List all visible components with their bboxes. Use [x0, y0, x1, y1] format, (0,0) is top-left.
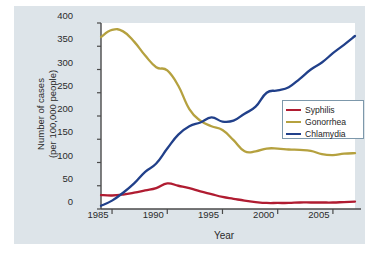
x-axis-tick-label: 1985: [78, 210, 118, 220]
legend: SyphilisGonorrheaChlamydia: [282, 100, 364, 139]
legend-swatch-gonorrhea: [286, 121, 301, 123]
legend-label: Syphilis: [305, 105, 335, 115]
x-axis-tick-label: 2000: [244, 210, 284, 220]
legend-item-chlamydia[interactable]: Chlamydia: [286, 128, 360, 139]
legend-swatch-chlamydia: [286, 133, 301, 135]
x-axis-tick-label: 1990: [133, 210, 173, 220]
y-axis-tick-label: 400: [39, 11, 73, 21]
x-axis-tick-label: 1995: [188, 210, 228, 220]
legend-label: Chlamydia: [305, 129, 346, 139]
figure: 050100150200250300350400 198519901995200…: [0, 0, 376, 255]
chart-panel: 050100150200250300350400 198519901995200…: [14, 6, 365, 244]
legend-item-syphilis[interactable]: Syphilis: [286, 104, 360, 115]
y-axis-title-line-2: (per 100,000 people): [47, 24, 59, 204]
legend-label: Gonorrhea: [305, 117, 346, 127]
series-line-syphilis: [101, 183, 355, 203]
y-axis-title-line-1: Number of cases: [35, 24, 47, 204]
x-axis-tick-label: 2005: [299, 210, 339, 220]
y-axis-title: Number of cases (per 100,000 people): [35, 24, 59, 204]
legend-item-gonorrhea[interactable]: Gonorrhea: [286, 116, 360, 127]
x-axis-title: Year: [164, 230, 284, 241]
legend-swatch-syphilis: [286, 109, 301, 111]
